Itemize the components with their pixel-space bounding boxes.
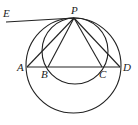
label-c: C [99, 68, 107, 80]
label-p: P [70, 4, 78, 16]
segment-pb [48, 18, 74, 67]
label-e: E [2, 7, 10, 19]
label-a: A [16, 61, 24, 73]
segment-pc [74, 18, 102, 67]
geometry-diagram: P E A B C D [0, 0, 138, 125]
segment-pa [27, 18, 74, 67]
label-b: B [41, 68, 48, 80]
segment-pd [74, 18, 120, 67]
large-circle [26, 18, 121, 113]
label-d: D [122, 61, 131, 73]
